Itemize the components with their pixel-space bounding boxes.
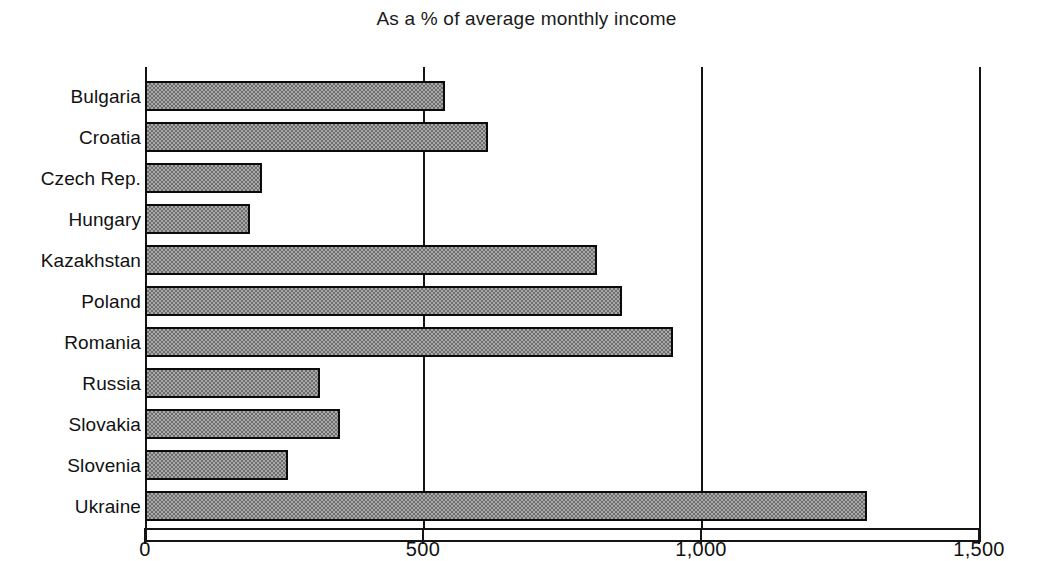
bar-row: Bulgaria (145, 76, 979, 117)
bar-row: Slovakia (145, 404, 979, 445)
bar-chart-figure: As a % of average monthly income Bulgari… (0, 0, 1053, 561)
bar-row: Kazakhstan (145, 240, 979, 281)
x-tick-label-0: 0 (139, 538, 150, 561)
category-label-hungary: Hungary (1, 199, 141, 240)
bar-kazakhstan (145, 245, 597, 275)
bar-row: Russia (145, 363, 979, 404)
category-label-slovakia: Slovakia (1, 404, 141, 445)
x-axis-baseline (145, 528, 981, 530)
chart-title: As a % of average monthly income (0, 8, 1053, 30)
bar-row: Poland (145, 281, 979, 322)
category-label-poland: Poland (1, 281, 141, 322)
category-label-slovenia: Slovenia (1, 445, 141, 486)
x-tick-label-1500: 1,500 (953, 538, 1005, 561)
category-label-ukraine: Ukraine (1, 486, 141, 527)
bar-ukraine (145, 491, 867, 521)
bar-row: Ukraine (145, 486, 979, 527)
category-label-kazakhstan: Kazakhstan (1, 240, 141, 281)
bar-row: Czech Rep. (145, 158, 979, 199)
category-label-czech-rep: Czech Rep. (1, 158, 141, 199)
bar-croatia (145, 122, 488, 152)
bar-row: Croatia (145, 117, 979, 158)
bar-row: Slovenia (145, 445, 979, 486)
bar-russia (145, 368, 320, 398)
gridline-1500 (979, 67, 981, 529)
x-axis-band (145, 528, 981, 542)
x-tick-label-1000: 1,000 (675, 538, 727, 561)
category-label-croatia: Croatia (1, 117, 141, 158)
bar-slovakia (145, 409, 340, 439)
bar-bulgaria (145, 81, 445, 111)
bar-hungary (145, 204, 250, 234)
bar-row: Romania (145, 322, 979, 363)
x-tick-label-500: 500 (406, 538, 440, 561)
bar-slovenia (145, 450, 288, 480)
category-label-russia: Russia (1, 363, 141, 404)
bar-poland (145, 286, 622, 316)
bar-romania (145, 327, 673, 357)
bar-row: Hungary (145, 199, 979, 240)
bar-czech-rep (145, 163, 262, 193)
category-label-bulgaria: Bulgaria (1, 76, 141, 117)
category-label-romania: Romania (1, 322, 141, 363)
